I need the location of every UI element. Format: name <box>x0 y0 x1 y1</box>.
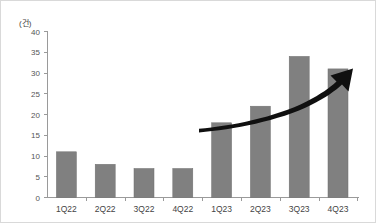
y-tick-label-30: 30 <box>31 69 40 78</box>
y-tick-label-5: 5 <box>36 173 41 182</box>
bar-series <box>56 56 348 197</box>
x-label-3q23: 3Q23 <box>289 204 310 214</box>
bar-chart-plot: (건) 40 35 30 25 20 15 10 5 0 <box>1 1 376 223</box>
x-label-2q23: 2Q23 <box>250 204 271 214</box>
y-axis-ticks: 40 35 30 25 20 15 10 5 0 <box>31 28 47 203</box>
y-tick-label-20: 20 <box>31 111 40 120</box>
x-label-4q22: 4Q22 <box>172 204 193 214</box>
x-axis-labels: 1Q22 2Q22 3Q22 4Q22 1Q23 2Q23 3Q23 4Q23 <box>56 204 349 214</box>
y-tick-label-10: 10 <box>31 152 40 161</box>
unit-label: (건) <box>19 18 32 28</box>
x-label-4q23: 4Q23 <box>328 204 349 214</box>
bar-3q22 <box>134 169 154 198</box>
bar-3q23 <box>289 56 309 197</box>
x-axis-ticks <box>86 198 358 202</box>
y-tick-label-25: 25 <box>31 90 40 99</box>
bar-2q22 <box>95 164 115 197</box>
y-tick-label-15: 15 <box>31 131 40 140</box>
bar-1q23 <box>212 123 232 198</box>
x-label-1q23: 1Q23 <box>211 204 232 214</box>
bar-4q22 <box>173 169 193 198</box>
y-tick-label-0: 0 <box>36 194 41 203</box>
y-tick-label-40: 40 <box>31 28 40 37</box>
bar-1q22 <box>56 152 76 198</box>
y-tick-label-35: 35 <box>31 48 40 57</box>
x-label-3q22: 3Q22 <box>134 204 155 214</box>
chart-container: (건) 40 35 30 25 20 15 10 5 0 <box>0 0 376 223</box>
x-label-2q22: 2Q22 <box>95 204 116 214</box>
x-label-1q22: 1Q22 <box>56 204 77 214</box>
